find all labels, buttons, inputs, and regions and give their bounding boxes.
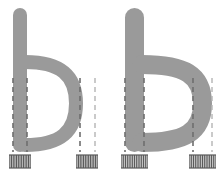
glyph-measurement-diagram <box>0 0 223 173</box>
specimen-left-bowl-width-hatch-right <box>76 155 98 168</box>
specimen-left-stem-width-hatch-left <box>9 155 31 168</box>
specimen-right-bowl-width-hatch-right <box>189 155 216 168</box>
specimen-right-bowl <box>142 65 203 143</box>
specimen-right-glyph-group <box>125 8 203 152</box>
specimen-right-stem <box>125 8 144 152</box>
specimen-right-stem-width-hatch-left <box>121 155 148 168</box>
specimen-left-stem <box>13 8 27 152</box>
specimen-left-glyph-group <box>13 8 76 152</box>
specimen-left-bowl <box>25 62 76 145</box>
typography-diagram-canvas <box>0 0 223 173</box>
